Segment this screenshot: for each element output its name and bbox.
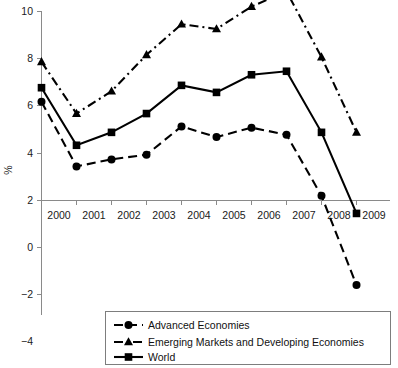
data-point bbox=[283, 131, 291, 139]
data-point bbox=[73, 141, 81, 149]
series-world bbox=[38, 67, 361, 217]
series-line bbox=[42, 71, 357, 213]
data-point bbox=[318, 129, 326, 137]
data-point bbox=[38, 84, 46, 92]
data-point bbox=[213, 133, 221, 141]
data-point bbox=[248, 124, 256, 132]
line-chart: 10 8 6 4 2 0 −2 −4 −6 % 2000 2001 2002 2… bbox=[0, 0, 398, 368]
x-tick-label-2004: 2004 bbox=[187, 209, 211, 221]
data-point bbox=[353, 210, 361, 218]
data-point bbox=[213, 89, 221, 97]
x-tick-label-2002: 2002 bbox=[117, 209, 141, 221]
chart-legend: Advanced Economies Emerging Markets and … bbox=[106, 312, 391, 365]
data-point bbox=[352, 128, 361, 136]
legend-label-emerging-markets: Emerging Markets and Developing Economie… bbox=[148, 336, 364, 348]
y-tick-label-0: 0 bbox=[27, 241, 33, 253]
chart-container: 10 8 6 4 2 0 −2 −4 −6 % 2000 2001 2002 2… bbox=[0, 0, 398, 368]
y-tick-label-neg2: −2 bbox=[21, 288, 33, 300]
y-tick-label-6: 6 bbox=[27, 99, 33, 111]
data-point bbox=[353, 281, 361, 289]
y-tick-label-4: 4 bbox=[27, 147, 33, 159]
data-point bbox=[108, 129, 116, 137]
series-advanced-economies bbox=[38, 98, 361, 289]
y-tick-label-10: 10 bbox=[21, 5, 33, 17]
series-layer bbox=[37, 0, 361, 289]
data-point bbox=[108, 155, 116, 163]
y-axis-ticks bbox=[37, 12, 42, 295]
legend-marker-circle-icon bbox=[125, 321, 133, 329]
x-tick-label-2003: 2003 bbox=[152, 209, 176, 221]
x-tick-label-2006: 2006 bbox=[257, 209, 281, 221]
data-point bbox=[318, 192, 326, 200]
data-point bbox=[143, 110, 151, 118]
y-axis-title: % bbox=[2, 165, 14, 174]
x-tick-label-2000: 2000 bbox=[47, 209, 71, 221]
data-point bbox=[178, 82, 186, 90]
data-point bbox=[177, 19, 186, 27]
legend-label-advanced-economies: Advanced Economies bbox=[148, 319, 250, 331]
y-tick-label-8: 8 bbox=[27, 52, 33, 64]
data-point bbox=[317, 52, 326, 60]
data-point bbox=[143, 151, 151, 159]
data-point bbox=[73, 162, 81, 170]
legend-marker-square-icon bbox=[125, 353, 133, 361]
legend-label-world: World bbox=[148, 351, 175, 363]
data-point bbox=[178, 122, 186, 130]
y-tick-label-2: 2 bbox=[27, 194, 33, 206]
data-point bbox=[38, 98, 46, 106]
x-tick-label-2001: 2001 bbox=[82, 209, 106, 221]
x-tick-label-2005: 2005 bbox=[222, 209, 246, 221]
data-point bbox=[248, 71, 256, 79]
x-axis-ticks bbox=[77, 201, 357, 206]
x-tick-label-2009: 2009 bbox=[362, 209, 386, 221]
series-line bbox=[42, 102, 357, 285]
x-tick-label-2007: 2007 bbox=[292, 209, 316, 221]
data-point bbox=[283, 67, 291, 75]
y-tick-label-neg4: −4 bbox=[21, 335, 33, 347]
